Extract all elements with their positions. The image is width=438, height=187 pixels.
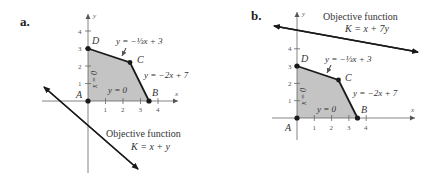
vertex-a-label: A — [284, 122, 292, 133]
vertex-c-label: C — [345, 72, 352, 83]
constraint-right-label: y = −2x + 7 — [143, 70, 189, 80]
pointer-arrow — [327, 65, 331, 73]
constraint-top-label: y = −⅓x + 3 — [324, 54, 372, 64]
vertex-a — [294, 115, 299, 120]
y-tick-1: 1 — [78, 80, 82, 88]
vertex-b-label: B — [152, 87, 158, 98]
x-tick-2: 2 — [121, 106, 125, 114]
x-tick-1: 1 — [313, 124, 317, 132]
constraint-bottom-label: y = 0 — [107, 85, 128, 95]
y-axis-label: y — [301, 10, 306, 18]
constraint-left-label: x = 0 — [90, 71, 99, 89]
x-tick-3: 3 — [347, 124, 351, 132]
y-tick-2: 2 — [78, 63, 82, 71]
vertex-c — [128, 60, 133, 65]
constraint-right-label: y = −2x + 7 — [352, 88, 398, 98]
y-tick-1: 1 — [288, 97, 292, 105]
y-tick-4: 4 — [288, 45, 292, 53]
x-axis-label: x — [174, 90, 179, 98]
vertex-a-label: A — [75, 89, 83, 100]
x-tick-1: 1 — [104, 106, 108, 114]
vertex-d — [294, 63, 299, 68]
vertex-c-label: C — [137, 54, 144, 65]
x-axis-label: x — [410, 106, 415, 114]
vertex-d-label: D — [91, 35, 100, 46]
panel-a-tag: a. — [20, 14, 30, 29]
pointer-arrow — [122, 48, 126, 56]
panel-b: b. 1 2 3 4 1 2 3 4 x y A B C D — [251, 8, 418, 140]
x-tick-3: 3 — [139, 106, 143, 114]
y-tick-3: 3 — [78, 45, 82, 53]
vertex-c — [336, 78, 341, 83]
y-tick-3: 3 — [288, 63, 292, 71]
x-tick-2: 2 — [330, 124, 334, 132]
figure: a. 1 2 3 4 1 2 3 4 x y — [0, 0, 438, 187]
constraint-top-label: y = −⅓x + 3 — [115, 36, 163, 46]
panel-a: a. 1 2 3 4 1 2 3 4 x y — [20, 12, 189, 173]
y-tick-2: 2 — [288, 80, 292, 88]
vertex-d — [85, 46, 90, 51]
objective-title: Objective function — [323, 11, 398, 22]
vertex-d-label: D — [300, 53, 309, 64]
x-tick-4: 4 — [156, 106, 160, 114]
objective-title: Objective function — [106, 128, 181, 139]
constraint-left-label: x = 0 — [299, 88, 308, 106]
x-tick-4: 4 — [364, 124, 368, 132]
y-tick-4: 4 — [78, 28, 82, 36]
objective-equation: K = x + y — [130, 141, 171, 152]
vertex-b-label: B — [361, 104, 367, 115]
constraint-bottom-label: y = 0 — [316, 104, 337, 114]
y-axis-label: y — [92, 12, 97, 20]
vertex-b — [355, 115, 360, 120]
panel-b-tag: b. — [251, 8, 261, 23]
vertex-b — [146, 98, 151, 103]
objective-equation: K = x + 7y — [344, 23, 390, 34]
vertex-a — [85, 98, 90, 103]
